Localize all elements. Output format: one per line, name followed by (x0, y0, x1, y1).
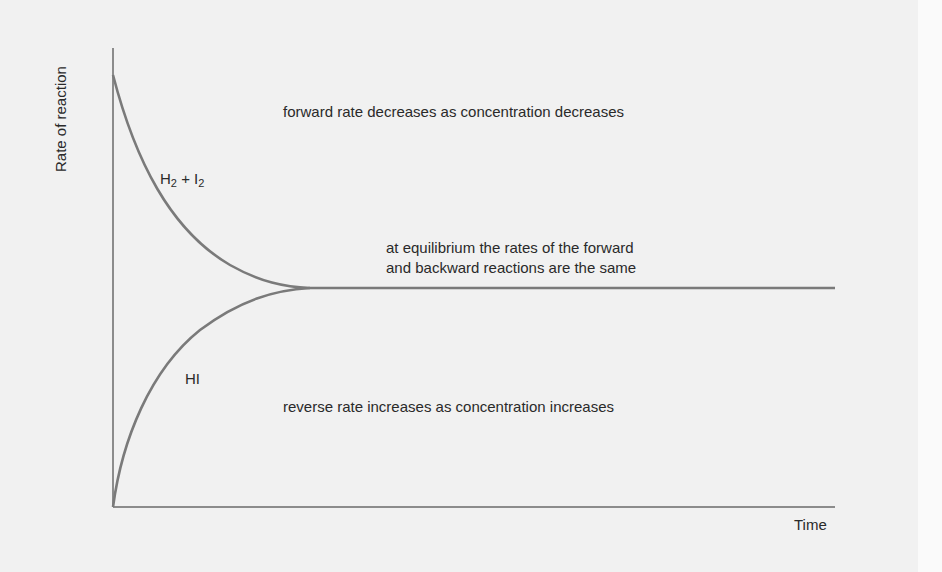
series-label-h2-i2-sub2: 2 (198, 177, 204, 189)
chart-canvas (0, 0, 942, 572)
x-axis-label: Time (794, 516, 827, 534)
y-axis-label: Rate of reaction (52, 66, 70, 172)
series-label-h2-i2-mid: + I (177, 170, 198, 187)
equilibrium-annotation: at equilibrium the rates of the forward … (386, 238, 636, 278)
series-label-h2-i2-main: H (160, 170, 171, 187)
chart-page: Rate of reaction Time forward rate decre… (0, 0, 942, 572)
series-label-h2-i2: H2 + I2 (160, 170, 204, 190)
series-label-hi: HI (185, 370, 200, 388)
reverse-rate-annotation: reverse rate increases as concentration … (283, 398, 614, 416)
reverse-rate-curve (113, 288, 310, 507)
equilibrium-annotation-line1: at equilibrium the rates of the forward (386, 238, 636, 258)
forward-rate-annotation: forward rate decreases as concentration … (283, 103, 624, 121)
equilibrium-annotation-line2: and backward reactions are the same (386, 258, 636, 278)
